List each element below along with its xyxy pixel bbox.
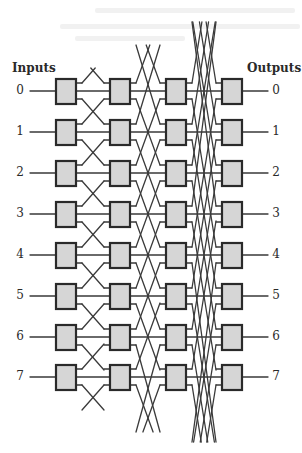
switch-node (56, 202, 76, 227)
output-port-1: 1 (270, 124, 282, 138)
switch-node (56, 284, 76, 309)
output-port-7: 7 (270, 369, 282, 383)
switch-node (110, 284, 130, 309)
input-port-0: 0 (14, 83, 26, 97)
switch-node (166, 365, 186, 390)
wrap-link (91, 68, 104, 83)
switch-node (166, 243, 186, 268)
switch-node (222, 243, 242, 268)
input-port-4: 4 (14, 247, 26, 261)
input-port-2: 2 (14, 165, 26, 179)
output-port-0: 0 (270, 83, 282, 97)
switch-node (110, 365, 130, 390)
switch-node (222, 365, 242, 390)
switch-node (166, 202, 186, 227)
switch-node (222, 161, 242, 186)
switch-node (110, 325, 130, 350)
inputs-heading: Inputs (12, 61, 56, 75)
output-port-3: 3 (270, 206, 282, 220)
switch-node (166, 284, 186, 309)
switch-node (110, 120, 130, 145)
switch-node (166, 161, 186, 186)
switch-node (56, 243, 76, 268)
input-port-3: 3 (14, 206, 26, 220)
switch-node (56, 365, 76, 390)
switch-node (222, 120, 242, 145)
switch-node (110, 79, 130, 104)
switch-node (166, 325, 186, 350)
switch-node (166, 120, 186, 145)
switch-node (110, 202, 130, 227)
switch-node (110, 243, 130, 268)
output-port-2: 2 (270, 165, 282, 179)
output-port-6: 6 (270, 329, 282, 343)
switch-node (222, 284, 242, 309)
input-port-1: 1 (14, 124, 26, 138)
input-port-7: 7 (14, 369, 26, 383)
switch-node (56, 161, 76, 186)
cross-link (82, 344, 104, 369)
input-port-5: 5 (14, 288, 26, 302)
cross-link (82, 345, 104, 370)
outputs-heading: Outputs (247, 61, 301, 75)
switch-node (222, 202, 242, 227)
switch-node (56, 325, 76, 350)
switch-node (56, 120, 76, 145)
input-port-6: 6 (14, 329, 26, 343)
switch-node (222, 325, 242, 350)
switch-node (222, 79, 242, 104)
switch-node (56, 79, 76, 104)
switch-node (110, 161, 130, 186)
output-port-4: 4 (270, 247, 282, 261)
switch-node (166, 79, 186, 104)
output-port-5: 5 (270, 288, 282, 302)
